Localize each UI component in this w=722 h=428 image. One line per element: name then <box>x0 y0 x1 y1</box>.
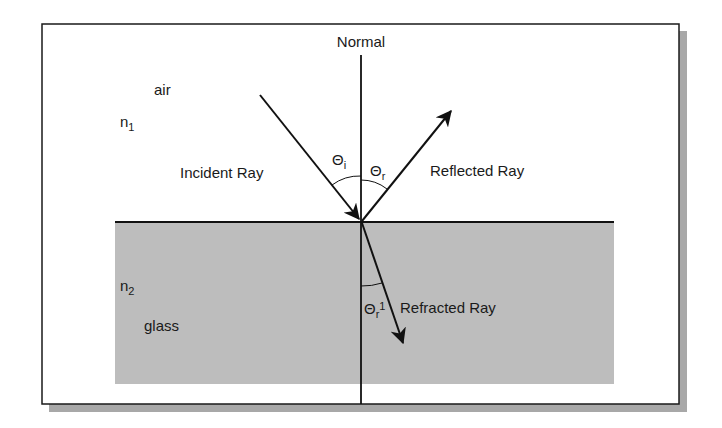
glass-label: glass <box>144 317 179 334</box>
refracted-ray-label: Refracted Ray <box>400 299 496 316</box>
incident-ray-label: Incident Ray <box>180 164 264 181</box>
reflected-ray-label: Reflected Ray <box>430 162 525 179</box>
normal-label: Normal <box>337 33 385 50</box>
air-label: air <box>154 81 171 98</box>
refraction-diagram: Normal Θi Θr Θr1 air n1 n2 glass Inciden… <box>0 0 722 428</box>
